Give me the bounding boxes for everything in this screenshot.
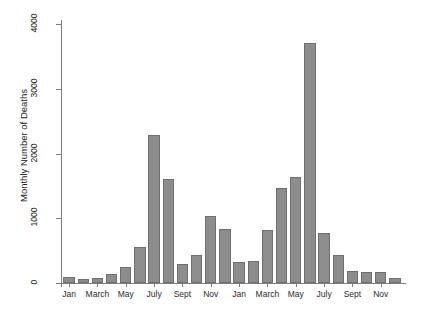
bar [389, 278, 400, 283]
y-axis-tick [56, 218, 61, 219]
y-axis-tick-label: 4000 [14, 18, 54, 30]
bar [333, 255, 344, 283]
bar [361, 272, 372, 283]
x-axis-tick [381, 283, 382, 287]
bar [347, 271, 358, 283]
bar [290, 177, 301, 283]
bar [205, 216, 216, 283]
x-axis-tick [154, 283, 155, 287]
bar [148, 135, 159, 283]
chart-figure: Monthly Number of Deaths 010002000300040… [0, 0, 422, 321]
y-axis-tick [56, 89, 61, 90]
x-axis-tick [267, 283, 268, 287]
bar [219, 229, 230, 283]
bar [262, 230, 273, 283]
bar [276, 188, 287, 283]
plot-area [62, 24, 402, 283]
y-axis-tick [56, 283, 61, 284]
bar [163, 179, 174, 283]
y-axis-tick-label: 2000 [14, 148, 54, 160]
bar [318, 233, 329, 284]
x-axis-tick [97, 283, 98, 287]
bar [248, 261, 259, 283]
y-axis-tick-label: 0 [14, 277, 54, 289]
y-axis-tick-label: 3000 [14, 83, 54, 95]
bar [134, 247, 145, 283]
x-axis-tick [352, 283, 353, 287]
x-axis-tick [126, 283, 127, 287]
bar [375, 272, 386, 283]
bar [177, 264, 188, 283]
y-axis-tick [56, 154, 61, 155]
x-axis-tick [69, 283, 70, 287]
x-axis-tick-label: Nov [361, 289, 401, 299]
x-axis-tick [324, 283, 325, 287]
x-axis-tick [296, 283, 297, 287]
bar [304, 43, 315, 283]
bar [78, 279, 89, 283]
bar [233, 262, 244, 283]
y-axis-tick [56, 24, 61, 25]
y-axis-tick-labels: 01000200030004000 [0, 0, 56, 321]
y-axis-tick-label: 1000 [14, 212, 54, 224]
x-axis-tick [182, 283, 183, 287]
x-axis-line [57, 283, 406, 284]
bar [106, 274, 117, 283]
bar [120, 267, 131, 283]
bar [191, 255, 202, 283]
x-axis-tick [211, 283, 212, 287]
x-axis-tick [239, 283, 240, 287]
